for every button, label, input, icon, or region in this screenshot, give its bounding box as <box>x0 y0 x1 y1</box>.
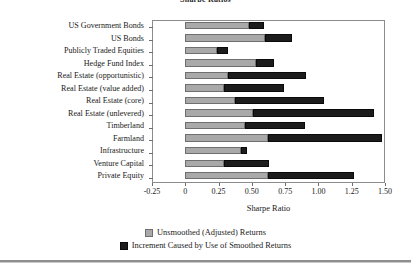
category-label: US Government Bonds <box>68 20 144 33</box>
category-label: Infrastructure <box>100 145 144 158</box>
bar-segment-increment <box>224 160 269 167</box>
bar-segment-unsmoothed <box>185 47 217 54</box>
bar-segment-unsmoothed <box>185 22 249 29</box>
bar-segment-unsmoothed <box>185 34 265 41</box>
bar-segment-unsmoothed <box>185 147 241 154</box>
legend-item: Increment Caused by Use of Smoothed Retu… <box>0 239 411 252</box>
bar-row <box>152 20 385 33</box>
legend-item: Unsmoothed (Adjusted) Returns <box>0 226 411 239</box>
value-tick-mark <box>219 183 220 186</box>
bar-row <box>152 145 385 158</box>
bar-segment-unsmoothed <box>185 59 256 66</box>
bar-segment-unsmoothed <box>185 72 228 79</box>
category-label: Real Estate (value added) <box>61 83 144 96</box>
bar-row <box>152 58 385 71</box>
bar-row <box>152 95 385 108</box>
value-axis-tick-labels: -0.2500.250.500.751.001.251.50 <box>0 187 411 199</box>
bar-row <box>152 170 385 183</box>
bar-row <box>152 83 385 96</box>
bar-segment-unsmoothed <box>185 160 224 167</box>
category-label: Real Estate (core) <box>86 95 144 108</box>
bar-segment-increment <box>241 147 246 154</box>
bar-row <box>152 45 385 58</box>
value-tick-mark <box>285 183 286 186</box>
bar-segment-increment <box>265 34 292 41</box>
category-label: Real Estate (unlevered) <box>68 108 144 121</box>
category-label: Hedge Fund Index <box>84 58 144 71</box>
bar-segment-increment <box>268 172 355 179</box>
bar-row <box>152 158 385 171</box>
bar-segment-increment <box>235 97 324 104</box>
bar-segment-increment <box>256 59 275 66</box>
sharpe-ratio-chart-figure: Sharpe Ratios US Government BondsUS Bond… <box>0 0 411 269</box>
legend-swatch-unsmoothed-icon <box>145 229 153 237</box>
page-footer-rule-shadow <box>0 262 411 263</box>
value-axis-title: Sharpe Ratio <box>152 204 385 213</box>
value-tick-mark <box>252 183 253 186</box>
category-label: US Bonds <box>111 33 144 46</box>
bar-series-container <box>152 20 385 183</box>
bar-segment-unsmoothed <box>185 134 268 141</box>
legend-label: Increment Caused by Use of Smoothed Retu… <box>132 241 292 250</box>
bar-segment-unsmoothed <box>185 84 224 91</box>
bar-segment-increment <box>217 47 228 54</box>
value-tick-label: 1.50 <box>365 187 405 196</box>
bar-row <box>152 133 385 146</box>
value-tick-mark <box>318 183 319 186</box>
category-label: Farmland <box>113 133 144 146</box>
bar-segment-unsmoothed <box>185 97 234 104</box>
bar-segment-unsmoothed <box>185 122 245 129</box>
category-label: Private Equity <box>97 170 144 183</box>
category-label: Real Estate (opportunistic) <box>57 70 144 83</box>
bar-row <box>152 33 385 46</box>
bar-row <box>152 108 385 121</box>
bar-segment-increment <box>245 122 305 129</box>
category-label: Timberland <box>107 120 144 133</box>
legend-label: Unsmoothed (Adjusted) Returns <box>157 228 266 237</box>
category-label: Venture Capital <box>93 158 144 171</box>
legend-swatch-increment-icon <box>120 242 128 250</box>
bar-segment-increment <box>268 134 383 141</box>
value-tick-mark <box>385 183 386 186</box>
bar-segment-increment <box>253 109 374 116</box>
value-tick-mark <box>352 183 353 186</box>
chart-legend: Unsmoothed (Adjusted) ReturnsIncrement C… <box>0 226 411 252</box>
chart-title: Sharpe Ratios <box>0 0 411 2</box>
bar-segment-unsmoothed <box>185 172 268 179</box>
bar-segment-increment <box>228 72 307 79</box>
bar-row <box>152 70 385 83</box>
value-tick-mark <box>152 183 153 186</box>
bar-row <box>152 120 385 133</box>
category-axis-labels: US Government BondsUS BondsPublicly Trad… <box>0 20 148 183</box>
bar-segment-unsmoothed <box>185 109 253 116</box>
bar-segment-increment <box>249 22 264 29</box>
category-label: Publicly Traded Equities <box>64 45 144 58</box>
value-tick-mark <box>185 183 186 186</box>
bar-segment-increment <box>224 84 284 91</box>
